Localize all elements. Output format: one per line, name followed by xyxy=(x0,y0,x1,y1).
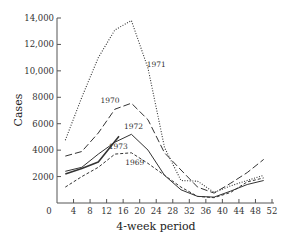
x-tick-label: 20 xyxy=(134,206,145,216)
series-line-1970 xyxy=(65,103,263,193)
x-axis-title: 4-week period xyxy=(116,220,195,233)
y-tick-label: 8000 xyxy=(32,92,54,102)
y-tick-label: 4000 xyxy=(32,145,54,155)
series-label-1973: 1973 xyxy=(109,142,128,151)
y-axis: 200040006000800010,00012,00014,000 xyxy=(24,13,61,203)
x-tick-label: 36 xyxy=(200,206,211,216)
series-label-1969: 1969 xyxy=(125,158,144,167)
x-tick-label: 8 xyxy=(87,206,92,216)
x-tick-label: 16 xyxy=(118,206,129,216)
x-tick-label: 32 xyxy=(184,206,195,216)
series-lines xyxy=(65,21,263,198)
x-tick-label: 52 xyxy=(267,206,278,216)
line-chart: 200040006000800010,00012,00014,000 04812… xyxy=(0,0,292,243)
series-line-1972 xyxy=(65,134,263,197)
x-tick-label: 40 xyxy=(217,206,228,216)
series-label-1970: 1970 xyxy=(100,96,119,105)
y-tick-label: 12,000 xyxy=(24,39,54,49)
x-tick-label: 0 xyxy=(46,206,51,216)
series-label-1971: 1971 xyxy=(147,60,166,69)
series-line-1969 xyxy=(65,153,263,198)
x-tick-label: 4 xyxy=(71,206,76,216)
x-axis: 0481216202428323640444852 xyxy=(46,199,277,216)
x-tick-label: 48 xyxy=(250,206,261,216)
series-label-1972: 1972 xyxy=(124,122,143,131)
y-tick-label: 14,000 xyxy=(24,13,54,23)
y-tick-label: 2000 xyxy=(32,172,54,182)
x-tick-label: 44 xyxy=(234,206,245,216)
series-labels: 19711970197219731969 xyxy=(100,60,165,167)
y-tick-label: 10,000 xyxy=(24,66,54,76)
x-tick-label: 24 xyxy=(151,206,162,216)
x-tick-label: 28 xyxy=(167,206,178,216)
x-tick-label: 12 xyxy=(101,206,112,216)
y-axis-title: Cases xyxy=(12,93,25,126)
y-tick-label: 6000 xyxy=(32,119,54,129)
series-line-1971 xyxy=(65,21,263,193)
